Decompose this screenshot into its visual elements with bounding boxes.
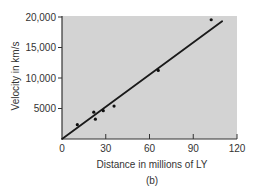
y-tick-label: 15,000 — [25, 42, 56, 53]
y-tick-label: 20,000 — [25, 12, 56, 23]
x-tick-label: 0 — [59, 143, 65, 154]
data-point — [76, 123, 79, 126]
x-axis-title: Distance in millions of LY — [97, 159, 208, 170]
y-axis-title: Velocity in km/s — [10, 42, 21, 111]
x-tick-label: 90 — [188, 143, 200, 154]
data-point — [112, 104, 115, 107]
figure-caption: (b) — [146, 175, 158, 186]
data-point — [102, 109, 105, 112]
data-point — [94, 118, 97, 121]
y-tick-label: 5000 — [34, 103, 57, 114]
data-point — [92, 111, 95, 114]
y-tick-label: 10,000 — [25, 73, 56, 84]
data-point — [157, 69, 160, 72]
x-tick-label: 120 — [229, 143, 246, 154]
x-tick-label: 30 — [100, 143, 112, 154]
data-point — [210, 18, 213, 21]
hubble-chart: 500010,00015,00020,000 0306090120 Distan… — [0, 0, 258, 195]
x-tick-label: 60 — [144, 143, 156, 154]
y-axis-ticks: 500010,00015,00020,000 — [25, 12, 62, 115]
